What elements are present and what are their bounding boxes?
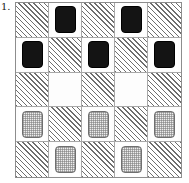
board-square-r2c4[interactable] — [115, 38, 148, 73]
dark-piece[interactable] — [22, 41, 43, 68]
board-square-r3c3[interactable] — [82, 73, 115, 108]
board-square-r3c5[interactable] — [148, 73, 181, 108]
board-square-r3c1[interactable] — [16, 73, 49, 108]
board-square-r5c1[interactable] — [16, 142, 49, 177]
board-square-r4c3[interactable] — [82, 107, 115, 142]
board-square-r5c4[interactable] — [115, 142, 148, 177]
board-square-r1c4[interactable] — [115, 3, 148, 38]
board-square-r1c3[interactable] — [82, 3, 115, 38]
light-piece[interactable] — [154, 111, 175, 138]
light-piece[interactable] — [121, 146, 142, 173]
board-square-r1c2[interactable] — [49, 3, 82, 38]
board-square-r4c1[interactable] — [16, 107, 49, 142]
figure-container: 1. — [0, 0, 189, 183]
board-square-r1c1[interactable] — [16, 3, 49, 38]
board-square-r4c4[interactable] — [115, 107, 148, 142]
board-square-r2c2[interactable] — [49, 38, 82, 73]
light-piece[interactable] — [88, 111, 109, 138]
board-square-r5c3[interactable] — [82, 142, 115, 177]
light-piece[interactable] — [55, 146, 76, 173]
dark-piece[interactable] — [154, 41, 175, 68]
board-square-r4c2[interactable] — [49, 107, 82, 142]
board-square-r4c5[interactable] — [148, 107, 181, 142]
dark-piece[interactable] — [121, 6, 142, 33]
dark-piece[interactable] — [88, 41, 109, 68]
board-square-r5c5[interactable] — [148, 142, 181, 177]
board-square-r2c1[interactable] — [16, 38, 49, 73]
dark-piece[interactable] — [55, 6, 76, 33]
board-square-r2c5[interactable] — [148, 38, 181, 73]
board-square-r2c3[interactable] — [82, 38, 115, 73]
board-square-r3c4[interactable] — [115, 73, 148, 108]
light-piece[interactable] — [22, 111, 43, 138]
board-square-r5c2[interactable] — [49, 142, 82, 177]
board-square-r1c5[interactable] — [148, 3, 181, 38]
figure-number-label: 1. — [1, 1, 11, 12]
checkers-board — [15, 2, 182, 178]
board-square-r3c2[interactable] — [49, 73, 82, 108]
